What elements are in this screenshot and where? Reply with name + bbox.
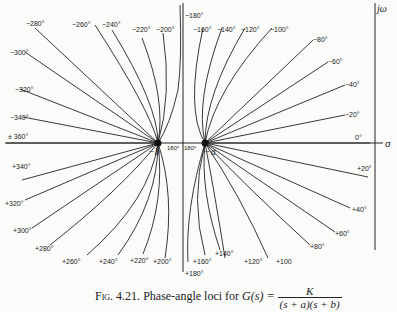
label-plus-300: +300° — [13, 227, 32, 234]
label-180-left: 180° — [167, 145, 179, 151]
label-minus-200: −200° — [156, 26, 175, 33]
label-minus-140: −140° — [217, 26, 236, 33]
caption-text: Phase-angle loci for — [143, 289, 239, 303]
label-minus-60: −60° — [328, 58, 343, 65]
transfer-function-fraction: K (s + a)(s + b) — [278, 285, 342, 310]
fraction-denominator: (s + a)(s + b) — [278, 298, 342, 310]
label-plus-100: +100 — [276, 258, 292, 265]
label-minus-280: −280° — [26, 20, 45, 27]
label-minus-160: −160° — [193, 26, 212, 33]
label-minus-100: −100° — [270, 26, 289, 33]
label-plus-320: +320° — [5, 200, 24, 207]
label-minus-260: −260° — [72, 21, 91, 28]
label-plus-40: +40° — [352, 206, 367, 213]
label-plus-140: +140° — [215, 250, 234, 257]
label-minus-240: −240° — [102, 21, 121, 28]
label-plus-280: +280° — [35, 245, 54, 252]
label-minus-300: −300° — [10, 49, 29, 56]
label-plus-80: +80° — [310, 243, 325, 250]
pole-a-label: −a — [204, 146, 216, 157]
label-plus-260: +260° — [62, 258, 81, 265]
label-plus-220: +220° — [130, 257, 149, 264]
sigma-axis-label: σ — [385, 137, 390, 149]
caption-prefix: Fig. 4.21. — [95, 289, 140, 303]
fraction-numerator: K — [278, 285, 342, 298]
loci-curves — [6, 5, 370, 262]
label-plus-200: +200° — [153, 258, 172, 265]
label-zero: 0° — [355, 134, 362, 141]
label-plus-60: +60° — [335, 230, 350, 237]
label-plus-340: +340° — [12, 163, 31, 170]
label-minus-20: −20° — [345, 111, 360, 118]
label-minus-80: −80° — [313, 36, 328, 43]
phase-angle-loci-plot — [0, 0, 397, 312]
pole-b-label: −b — [148, 146, 160, 157]
label-minus-180: −180° — [185, 12, 204, 19]
label-minus-340: −340° — [10, 114, 29, 121]
label-plus-180: +180° — [185, 270, 204, 277]
label-plus-20: +20° — [357, 165, 372, 172]
label-plus-120: +120° — [244, 258, 263, 265]
label-minus-220: −220° — [132, 26, 151, 33]
label-minus-120: −120° — [241, 26, 260, 33]
label-minus-320: −320° — [15, 86, 34, 93]
caption-function: G(s) = — [242, 289, 274, 303]
label-pm-360: ± 360° — [8, 133, 28, 140]
label-180-right: 180° — [184, 145, 196, 151]
figure-caption: Fig. 4.21. Phase-angle loci for G(s) = K… — [95, 285, 342, 310]
label-plus-240: +240° — [99, 258, 118, 265]
label-minus-40: −40° — [345, 81, 360, 88]
label-plus-160: +160° — [193, 258, 212, 265]
j-omega-axis-label: jω — [377, 3, 387, 14]
